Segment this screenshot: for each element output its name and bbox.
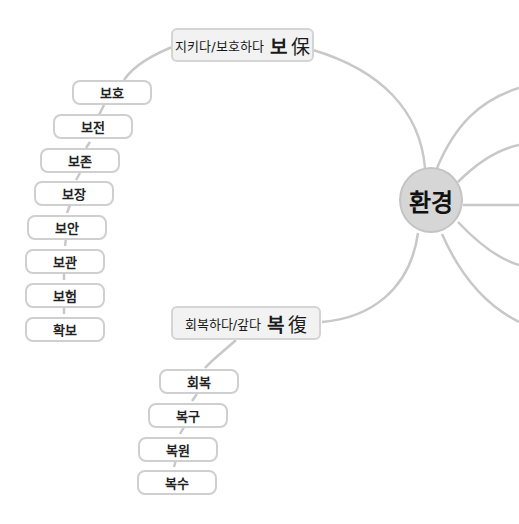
branch-protect[interactable]: 지키다/보호하다 보 保	[171, 28, 314, 62]
branch-hanja: 保	[291, 32, 310, 59]
central-topic[interactable]: 환경	[399, 167, 463, 233]
leaf-item[interactable]: 보험	[25, 283, 105, 308]
leaf-item[interactable]: 보호	[72, 80, 152, 105]
leaf-item[interactable]: 확보	[25, 317, 105, 342]
leaf-item[interactable]: 보관	[25, 249, 105, 274]
leaf-item[interactable]: 복원	[138, 437, 218, 462]
leaf-item[interactable]: 복구	[148, 403, 228, 428]
branch-korean-char: 복	[267, 310, 284, 337]
leaf-item[interactable]: 회복	[159, 369, 239, 394]
leaf-item[interactable]: 보전	[53, 114, 133, 139]
branch-label: 지키다/보호하다	[175, 36, 263, 55]
branch-restore[interactable]: 회복하다/갚다 복 復	[171, 306, 321, 340]
leaf-item[interactable]: 보존	[40, 148, 120, 173]
branch-label: 회복하다/갚다	[185, 314, 261, 333]
branch-hanja: 復	[288, 310, 307, 337]
branch-korean-char: 보	[270, 32, 287, 59]
leaf-item[interactable]: 보장	[34, 181, 114, 206]
leaf-item[interactable]: 복수	[137, 470, 217, 495]
leaf-item[interactable]: 보안	[27, 215, 107, 240]
